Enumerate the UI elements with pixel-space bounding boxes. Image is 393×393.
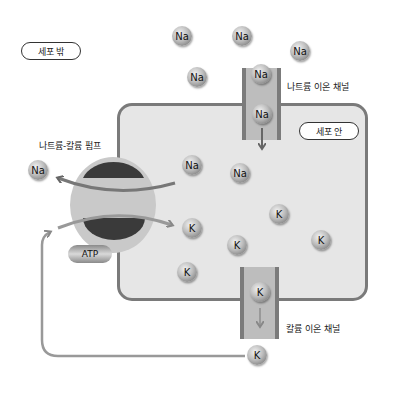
sodium-ion: Na bbox=[251, 64, 271, 84]
sodium-ion: Na bbox=[187, 67, 207, 87]
sodium-ion: Na bbox=[28, 160, 48, 180]
sodium-ion: Na bbox=[232, 26, 252, 46]
diagram-stage: 세포 밖 세포 안 나트륨-칼륨 펌프 나트륨 이온 채널 칼륨 이온 채널 A… bbox=[0, 0, 393, 393]
potassium-ion: K bbox=[227, 235, 247, 255]
potassium-ion: K bbox=[250, 282, 270, 302]
potassium-ion: K bbox=[311, 230, 331, 250]
potassium-ion: K bbox=[182, 218, 202, 238]
pump-label: 나트륨-칼륨 펌프 bbox=[39, 139, 101, 152]
sodium-channel-label: 나트륨 이온 채널 bbox=[287, 80, 349, 93]
potassium-ion: K bbox=[269, 204, 289, 224]
sodium-ion: Na bbox=[230, 163, 250, 183]
sodium-ion: Na bbox=[252, 104, 272, 124]
inside-cell-label: 세포 안 bbox=[299, 122, 359, 140]
atp-badge: ATP bbox=[68, 245, 112, 263]
sodium-potassium-pump bbox=[70, 157, 156, 253]
sodium-ion: Na bbox=[182, 155, 202, 175]
sodium-ion: Na bbox=[290, 41, 310, 61]
potassium-ion: K bbox=[177, 262, 197, 282]
sodium-ion: Na bbox=[172, 26, 192, 46]
potassium-channel-label: 칼륨 이온 채널 bbox=[286, 322, 340, 335]
outside-cell-label: 세포 밖 bbox=[21, 42, 81, 60]
potassium-ion: K bbox=[247, 345, 267, 365]
